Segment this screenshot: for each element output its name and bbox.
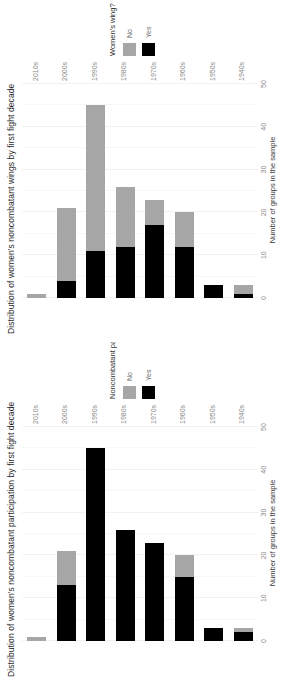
axis-tick-label: 30 <box>260 509 267 517</box>
bar-segment-yes <box>145 543 164 641</box>
category-label-1940s: 1940s <box>238 62 245 81</box>
bar-segment-yes <box>175 247 194 298</box>
bar-1960s[interactable] <box>175 212 194 298</box>
bar-1980s[interactable] <box>116 187 135 298</box>
category-label-1980s: 1980s <box>120 405 127 424</box>
bar-segment-no <box>57 208 76 281</box>
legend-label-no: No <box>126 372 133 381</box>
legend-item-yes[interactable]: Yes <box>142 2 155 56</box>
bar-segment-yes <box>175 577 194 641</box>
category-label-2000s: 2000s <box>61 62 68 81</box>
axis-tick-label: 50 <box>260 423 267 431</box>
category-label-2010s: 2010s <box>32 62 39 81</box>
bar-1940s[interactable] <box>234 285 253 298</box>
bar-segment-yes <box>145 225 164 298</box>
bar-segment-yes <box>86 251 105 298</box>
bar-segment-yes <box>57 281 76 298</box>
bar-segment-no <box>86 105 105 251</box>
axis-tick-label: 0 <box>260 639 267 643</box>
bar-segment-no <box>175 555 194 576</box>
bar-segment-no <box>234 285 253 294</box>
bar-segment-yes <box>86 448 105 641</box>
bar-1960s[interactable] <box>175 555 194 641</box>
axis-tick-label: 10 <box>260 594 267 602</box>
bar-2010s[interactable] <box>27 637 46 641</box>
legend-label-no: No <box>126 29 133 38</box>
axis-tick-label: 0 <box>260 296 267 300</box>
bar-segment-no <box>145 200 164 226</box>
category-label-1980s: 1980s <box>120 62 127 81</box>
panel-participation: Distribution of women's noncombatant par… <box>0 343 306 685</box>
category-label-1950s: 1950s <box>209 62 216 81</box>
category-label-1960s: 1960s <box>179 405 186 424</box>
axis-tick-label: 30 <box>260 166 267 174</box>
legend-participation: Noncombatant participation No Yes <box>108 345 161 399</box>
legend-wings: Women's wing? No Yes <box>108 2 161 56</box>
bar-segment-no <box>116 187 135 247</box>
panel-wings: Distribution of women's noncombatant win… <box>0 0 306 342</box>
legend-label-yes: Yes <box>145 27 152 38</box>
panel-title-wings: Distribution of women's noncombatant win… <box>6 84 16 334</box>
axis-tick-label: 50 <box>260 80 267 88</box>
category-label-1970s: 1970s <box>150 62 157 81</box>
legend-item-no[interactable]: No <box>123 2 136 56</box>
legend-label-yes: Yes <box>145 370 152 381</box>
category-label-1960s: 1960s <box>179 62 186 81</box>
bar-1970s[interactable] <box>145 200 164 298</box>
bar-segment-yes <box>204 628 223 641</box>
legend-item-yes[interactable]: Yes <box>142 345 155 399</box>
bar-segment-no <box>234 628 253 632</box>
bars-wings <box>22 84 258 298</box>
legend-title-participation: Noncombatant participation <box>108 345 117 399</box>
axis-tick-label: 20 <box>260 209 267 217</box>
legend-swatch-yes-icon <box>142 43 155 56</box>
axis-tick-label: 40 <box>260 123 267 131</box>
axis-title-wings: Number of groups in the sample <box>268 137 277 244</box>
category-label-1990s: 1990s <box>91 62 98 81</box>
legend-swatch-no-icon <box>123 43 136 56</box>
category-label-1990s: 1990s <box>91 405 98 424</box>
plot-area-wings <box>22 84 258 298</box>
category-label-1970s: 1970s <box>150 405 157 424</box>
legend-title-wings: Women's wing? <box>108 2 117 56</box>
bar-1940s[interactable] <box>234 628 253 641</box>
axis-title-participation: Number of groups in the sample <box>268 480 277 587</box>
axis-tick-label: 20 <box>260 552 267 560</box>
category-label-1950s: 1950s <box>209 405 216 424</box>
axis-tick-label: 10 <box>260 251 267 259</box>
legend-swatch-no-icon <box>123 386 136 399</box>
category-label-1940s: 1940s <box>238 405 245 424</box>
legend-item-no[interactable]: No <box>123 345 136 399</box>
bars-participation <box>22 427 258 641</box>
bar-segment-yes <box>234 632 253 641</box>
bar-segment-no <box>175 212 194 246</box>
bar-segment-yes <box>57 585 76 641</box>
bar-segment-yes <box>116 247 135 298</box>
bar-2000s[interactable] <box>57 208 76 298</box>
bar-segment-yes <box>116 530 135 641</box>
bar-1980s[interactable] <box>116 530 135 641</box>
bar-1950s[interactable] <box>204 285 223 298</box>
bar-2010s[interactable] <box>27 294 46 298</box>
bar-1970s[interactable] <box>145 543 164 641</box>
plot-area-participation <box>22 427 258 641</box>
bar-segment-yes <box>234 294 253 298</box>
category-label-2000s: 2000s <box>61 405 68 424</box>
legend-swatch-yes-icon <box>142 386 155 399</box>
category-label-2010s: 2010s <box>32 405 39 424</box>
bar-1990s[interactable] <box>86 448 105 641</box>
bar-1950s[interactable] <box>204 628 223 641</box>
figure-canvas: Distribution of women's noncombatant par… <box>0 0 306 685</box>
panel-title-participation: Distribution of women's noncombatant par… <box>6 402 16 677</box>
bar-1990s[interactable] <box>86 105 105 298</box>
bar-segment-no <box>27 637 46 641</box>
bar-segment-no <box>27 294 46 298</box>
bar-segment-no <box>57 551 76 585</box>
bar-2000s[interactable] <box>57 551 76 641</box>
axis-tick-label: 40 <box>260 466 267 474</box>
bar-segment-yes <box>204 285 223 298</box>
